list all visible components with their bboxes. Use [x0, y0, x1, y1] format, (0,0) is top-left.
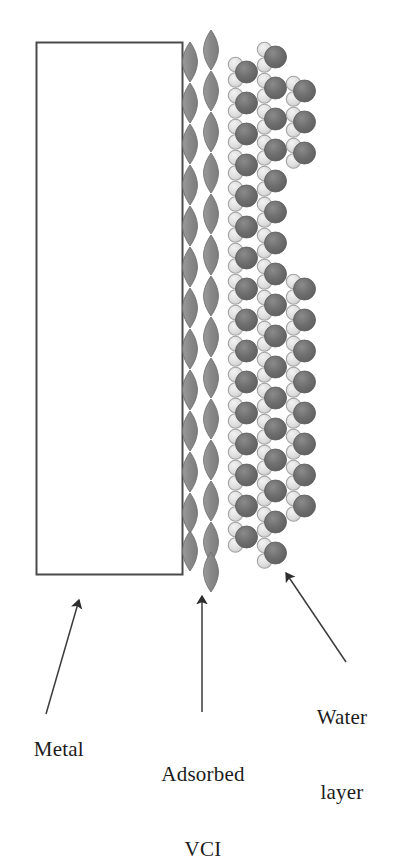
- water-layer-label-line1: Water: [296, 705, 388, 730]
- water-column-1: [228, 57, 257, 552]
- metal-label-text: Metal: [34, 737, 84, 761]
- vci-column-2: [204, 30, 219, 592]
- adsorbed-vci-label: Adsorbed VCI: [130, 712, 276, 860]
- metal-block: [37, 43, 183, 575]
- metal-label: Metal: [12, 712, 84, 787]
- water-layer-label-line2: layer: [296, 780, 388, 805]
- adsorbed-vci-label-line1: Adsorbed: [130, 762, 276, 787]
- water-layer-label: Water layer: [296, 655, 388, 855]
- water-column-3: [286, 76, 315, 521]
- metal-arrow: [46, 600, 79, 714]
- water-arrow: [286, 573, 346, 662]
- water-column-2: [257, 42, 286, 568]
- vci-column-1: [183, 42, 198, 571]
- adsorbed-vci-label-line2: VCI: [130, 837, 276, 860]
